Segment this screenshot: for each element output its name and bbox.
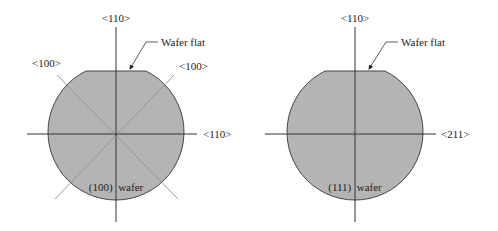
wafer-111-caption: (111) wafer	[328, 181, 382, 194]
wafer-111-label-top: <110>	[341, 12, 370, 24]
wafer-100-label-top: <110>	[102, 12, 131, 24]
wafer-100-label-flat: Wafer flat	[161, 36, 205, 48]
wafer-111-group: <110> <211> Wafer flat (111) wafer	[265, 12, 470, 222]
wafer-100-caption: (100) wafer	[89, 181, 144, 194]
wafer-100-label-upper-left: <100>	[32, 57, 61, 69]
wafer-100-group: <110> <110> <100> <100> Wafer flat (100)…	[27, 12, 232, 222]
wafer-100-label-right: <110>	[203, 128, 232, 140]
wafer-100-label-upper-right: <100>	[179, 60, 208, 72]
wafer-100-flat-leader	[130, 42, 158, 69]
wafer-111-label-right: <211>	[441, 128, 470, 140]
wafer-orientation-diagram: <110> <110> <100> <100> Wafer flat (100)…	[0, 0, 498, 231]
wafer-111-label-flat: Wafer flat	[401, 36, 445, 48]
wafer-111-flat-leader	[369, 42, 398, 69]
